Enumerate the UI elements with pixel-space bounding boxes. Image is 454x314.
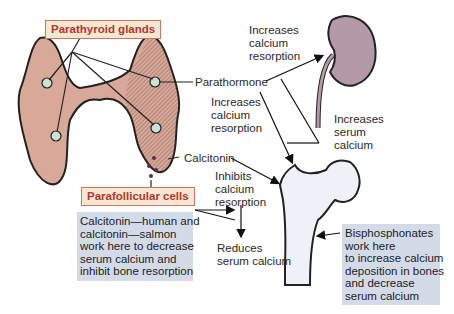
parafollicular-cells-label: Parafollicular cells — [81, 187, 195, 206]
bone-effect-pth-label: Increases calcium resorption — [211, 96, 262, 135]
kidney-illustration — [318, 16, 376, 128]
parathormone-label: Parathormone — [195, 76, 268, 89]
reduces-serum-calcium-label: Reduces serum calcium — [217, 242, 291, 268]
calcitonin-label: Calcitonin — [184, 152, 235, 165]
parathyroid-glands-label: Parathyroid glands — [45, 20, 161, 39]
calcitonin-effect-label: Inhibits calcium resorption — [215, 170, 266, 209]
serum-effect-label: Increases serum calcium — [334, 113, 384, 152]
bisphosphonates-note: Bisphosphonates work here to increase ca… — [342, 224, 440, 305]
calcitonin-drugs-note: Calcitonin—human and calcitonin—salmon w… — [77, 212, 193, 281]
thyroid-gland-illustration — [19, 35, 180, 184]
kidney-effect-label: Increases calcium resorption — [249, 24, 300, 63]
